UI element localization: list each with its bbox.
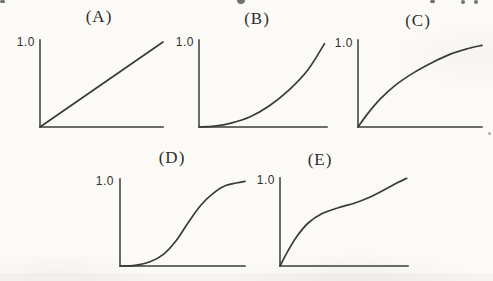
stray-mark: [488, 132, 491, 135]
panel-d-title: (D): [159, 148, 186, 168]
cropped-text-fragment: [430, 0, 435, 3]
panel-d-plot: [117, 177, 248, 270]
cropped-text-fragment: [237, 0, 245, 4]
panel-e-title: (E): [308, 150, 333, 170]
figure-canvas: (A) (B) (C) (D) (E) 1.0 1.0 1.0 1.0 1.0: [0, 0, 493, 281]
panel-d-ytick-label: 1.0: [84, 175, 114, 187]
panel-a-title: (A): [86, 7, 113, 27]
panel-b-plot: [196, 38, 330, 131]
panel-e-plot: [277, 176, 411, 270]
cropped-text-fragment: [461, 0, 465, 4]
cropped-text-fragment: [0, 0, 5, 3]
panel-c-plot: [355, 38, 485, 131]
panel-b-ytick-label: 1.0: [164, 36, 194, 48]
panel-a-plot: [37, 38, 166, 131]
panel-a-ytick-label: 1.0: [5, 36, 35, 48]
panel-b-title: (B): [244, 9, 270, 29]
cropped-text-fragment: [474, 0, 478, 4]
panel-e-ytick-label: 1.0: [245, 174, 275, 186]
scan-smudge: [0, 273, 493, 281]
panel-c-title: (C): [405, 11, 431, 31]
